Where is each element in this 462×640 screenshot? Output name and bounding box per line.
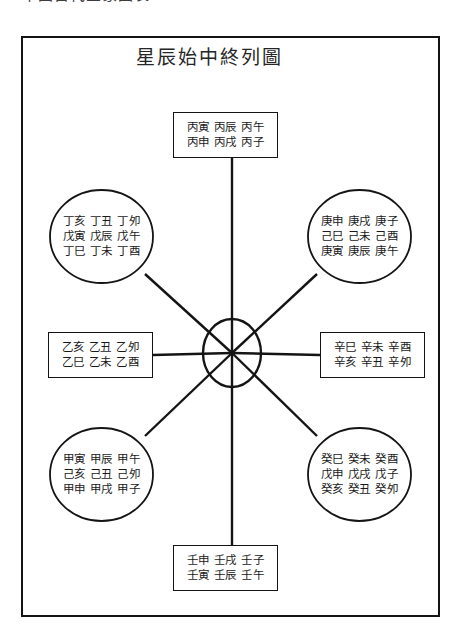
node-bottom-left-row-0: 甲寅 甲辰 甲午 xyxy=(63,452,140,467)
node-top-left-row-0: 丁亥 丁丑 丁夘 xyxy=(63,214,140,229)
node-top-right-row-1: 己巳 己未 己酉 xyxy=(321,229,398,244)
diagram-canvas: 丙寅 丙辰 丙午 丙申 丙戌 丙子 丁亥 丁丑 丁夘 戊寅 戊辰 戊午 丁巳 丁… xyxy=(21,36,440,617)
node-right: 辛巳 辛未 辛酉 辛亥 辛丑 辛夘 xyxy=(320,332,425,378)
node-top-row-0: 丙寅 丙辰 丙午 xyxy=(187,120,264,135)
node-bottom-right-row-0: 癸巳 癸未 癸酉 xyxy=(321,452,398,467)
node-right-row-0: 辛巳 辛未 辛酉 xyxy=(334,340,411,355)
node-top-right: 庚申 庚戌 庚子 己巳 己未 己酉 庚寅 庚辰 庚午 xyxy=(308,190,411,283)
spoke-right xyxy=(232,353,320,355)
spoke-lines xyxy=(145,158,320,545)
node-top-left: 丁亥 丁丑 丁夘 戊寅 戊辰 戊午 丁巳 丁未 丁酉 xyxy=(50,190,153,283)
node-bottom-right-row-2: 癸亥 癸丑 癸夘 xyxy=(321,482,398,497)
node-top-left-row-2: 丁巳 丁未 丁酉 xyxy=(63,244,140,259)
spoke-bottom-left xyxy=(145,353,232,436)
node-bottom-right-row-1: 戊申 戊戌 戊子 xyxy=(321,467,398,482)
node-bottom-left-row-1: 己亥 己丑 己夘 xyxy=(63,467,140,482)
node-right-row-1: 辛亥 辛丑 辛夘 xyxy=(334,355,411,370)
scan-header-sliver: 中国古代星象图表 xyxy=(0,0,462,14)
scan-header-text: 中国古代星象图表 xyxy=(22,0,150,4)
spoke-bottom-right xyxy=(232,353,317,436)
node-top-right-row-0: 庚申 庚戌 庚子 xyxy=(321,214,398,229)
node-top-row-1: 丙申 丙戌 丙子 xyxy=(187,135,264,150)
node-bottom-row-0: 壬申 壬戌 壬子 xyxy=(187,553,264,568)
node-top-right-row-2: 庚寅 庚辰 庚午 xyxy=(321,244,398,259)
node-bottom-left: 甲寅 甲辰 甲午 己亥 己丑 己夘 甲申 甲戌 甲子 xyxy=(50,428,153,521)
node-left: 乙亥 乙丑 乙夘 乙巳 乙未 乙酉 xyxy=(48,332,153,378)
spoke-left xyxy=(153,353,232,355)
spoke-top-left xyxy=(145,274,232,353)
node-top: 丙寅 丙辰 丙午 丙申 丙戌 丙子 xyxy=(173,112,278,158)
node-left-row-1: 乙巳 乙未 乙酉 xyxy=(62,355,139,370)
node-top-left-row-1: 戊寅 戊辰 戊午 xyxy=(63,229,140,244)
node-bottom: 壬申 壬戌 壬子 壬寅 壬辰 壬午 xyxy=(173,545,278,591)
node-bottom-row-1: 壬寅 壬辰 壬午 xyxy=(187,568,264,583)
node-left-row-0: 乙亥 乙丑 乙夘 xyxy=(62,340,139,355)
node-bottom-right: 癸巳 癸未 癸酉 戊申 戊戌 戊子 癸亥 癸丑 癸夘 xyxy=(308,428,411,521)
node-bottom-left-row-2: 甲申 甲戌 甲子 xyxy=(63,482,140,497)
spoke-top-right xyxy=(232,274,317,353)
